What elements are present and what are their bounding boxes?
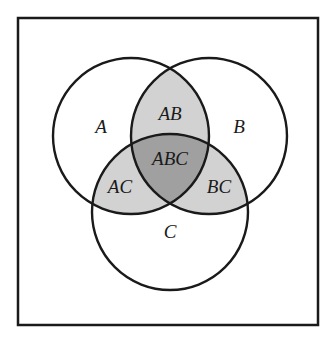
label-c: C [164,221,177,242]
label-a: A [93,116,107,137]
venn-diagram-canvas: A B C AB AC BC ABC [0,0,335,348]
label-b: B [233,116,245,137]
label-ab: AB [156,103,182,124]
label-bc: BC [207,176,232,197]
label-abc: ABC [150,148,188,169]
venn-diagram-figure: A B C AB AC BC ABC [0,0,335,348]
label-ac: AC [106,176,133,197]
